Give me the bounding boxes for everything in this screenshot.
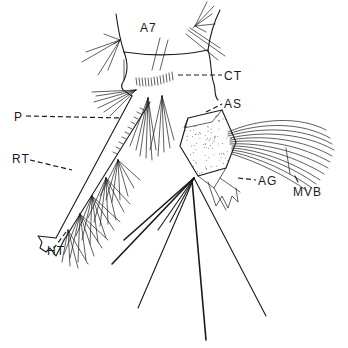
stipple-dot <box>196 163 197 164</box>
stipple-dot <box>196 143 197 144</box>
stipple-dot <box>202 174 203 175</box>
stipple-dot <box>222 143 223 144</box>
stipple-dot <box>215 136 216 137</box>
stipple-dot <box>225 158 226 159</box>
stipple-dot <box>207 126 208 127</box>
svg-text:P: P <box>14 110 23 124</box>
stipple-dot <box>225 119 226 120</box>
stipple-dot <box>196 149 197 150</box>
stipple-dot <box>215 116 216 117</box>
ventral-brush <box>112 178 266 340</box>
stipple-dot <box>206 139 207 140</box>
stipple-dot <box>199 173 200 174</box>
label-as: AS <box>206 97 242 112</box>
label-ct: CT <box>178 69 242 83</box>
svg-text:AG: AG <box>258 174 277 188</box>
larva-diagram: A7 CT P AS RT AG MVB HT <box>0 0 348 348</box>
stipple-dot <box>223 163 224 164</box>
stipple-dot <box>216 166 217 167</box>
a7-left-setae <box>82 34 120 75</box>
svg-text:MVB: MVB <box>293 185 322 199</box>
stipple-dot <box>210 145 211 146</box>
stipple-dot <box>193 166 194 167</box>
stipple-dot <box>214 136 215 137</box>
stipple-dot <box>205 143 206 144</box>
stipple-dot <box>212 148 213 149</box>
stipple-dot <box>187 140 188 141</box>
stipple-dot <box>199 132 200 133</box>
label-ht: HT <box>47 232 66 258</box>
svg-text:RT: RT <box>12 152 30 166</box>
stipple-dot <box>218 143 219 144</box>
stipple-dot <box>214 141 215 142</box>
anal-saddle <box>180 110 236 176</box>
stipple-dot <box>204 147 205 148</box>
stipple-dot <box>231 148 232 149</box>
svg-text:HT: HT <box>47 244 65 258</box>
stipple-dot <box>198 134 199 135</box>
stipple-dot <box>187 158 188 159</box>
stipple-dot <box>192 136 193 137</box>
label-ag: AG <box>238 174 277 188</box>
anal-saddle-stipple <box>182 115 232 175</box>
stipple-dot <box>221 153 222 154</box>
stipple-dot <box>227 160 228 161</box>
comb-teeth <box>136 72 173 86</box>
stipple-dot <box>193 130 194 131</box>
svg-text:A7: A7 <box>140 21 157 35</box>
stipple-dot <box>205 135 206 136</box>
stipple-dot <box>218 169 219 170</box>
stipple-dot <box>187 136 188 137</box>
stipple-dot <box>206 160 207 161</box>
stipple-dot <box>208 148 209 149</box>
label-rt: RT <box>12 152 72 170</box>
stipple-dot <box>214 140 215 141</box>
stipple-dot <box>210 138 211 139</box>
stipple-dot <box>214 137 215 138</box>
label-p: P <box>14 110 122 124</box>
stipple-dot <box>205 167 206 168</box>
label-a7: A7 <box>140 21 157 35</box>
stipple-dot <box>182 138 183 139</box>
stipple-dot <box>194 145 195 146</box>
stipple-dot <box>193 152 194 153</box>
stipple-dot <box>219 120 220 121</box>
stipple-dot <box>200 133 201 134</box>
stipple-dot <box>226 138 227 139</box>
stipple-dot <box>208 131 209 132</box>
stipple-dot <box>196 134 197 135</box>
stipple-dot <box>217 136 218 137</box>
stipple-dot <box>219 129 220 130</box>
pecten <box>113 108 144 154</box>
stipple-dot <box>211 166 212 167</box>
stipple-dot <box>197 171 198 172</box>
stipple-dot <box>219 160 220 161</box>
stipple-dot <box>206 168 207 169</box>
stipple-dot <box>221 157 222 158</box>
stipple-dot <box>201 172 202 173</box>
stipple-dot <box>193 160 194 161</box>
stipple-dot <box>209 140 210 141</box>
stipple-dot <box>223 119 224 120</box>
stipple-dot <box>218 120 219 121</box>
stipple-dot <box>203 144 204 145</box>
stipple-dot <box>208 127 209 128</box>
stipple-dot <box>216 115 217 116</box>
stipple-dot <box>185 130 186 131</box>
stipple-dot <box>211 129 212 130</box>
stipple-dot <box>194 126 195 127</box>
stipple-dot <box>208 157 209 158</box>
svg-text:CT: CT <box>224 69 242 83</box>
svg-text:AS: AS <box>224 97 242 111</box>
stipple-dot <box>207 138 208 139</box>
dorsal-brush <box>228 120 334 190</box>
stipple-dot <box>191 145 192 146</box>
stipple-dot <box>205 155 206 156</box>
stipple-dot <box>224 154 225 155</box>
stipple-dot <box>195 162 196 163</box>
stipple-dot <box>183 134 184 135</box>
stipple-dot <box>211 171 212 172</box>
stipple-dot <box>227 151 228 152</box>
stipple-dot <box>212 143 213 144</box>
stipple-dot <box>200 138 201 139</box>
